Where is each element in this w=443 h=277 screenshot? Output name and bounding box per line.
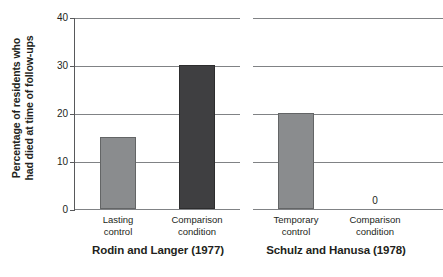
category-label-temporary-control-line2: control bbox=[274, 226, 319, 238]
bar-comparison-condition-rodin[interactable] bbox=[179, 65, 215, 209]
group-title-schulz-hanusa: Schulz and Hanusa (1978) bbox=[266, 244, 405, 256]
category-label-comparison-condition-schulz-line2: condition bbox=[349, 226, 400, 238]
y-tick-label-30: 30 bbox=[42, 61, 68, 71]
y-tick-label-20: 20 bbox=[42, 109, 68, 119]
group-title-rodin-langer: Rodin and Langer (1977) bbox=[92, 244, 224, 256]
category-label-comparison-condition-schulz: Comparison condition bbox=[349, 214, 400, 237]
gridline-40 bbox=[75, 18, 240, 19]
category-label-temporary-control: Temporary control bbox=[274, 214, 319, 237]
bar-value-label-comparison-schulz: 0 bbox=[372, 195, 378, 206]
gridline-30 bbox=[75, 66, 240, 67]
y-tick-label-40: 40 bbox=[42, 13, 68, 23]
category-label-comparison-condition-rodin-line2: condition bbox=[171, 226, 222, 238]
category-label-lasting-control-line1: Lasting bbox=[103, 214, 134, 226]
category-label-comparison-condition-rodin: Comparison condition bbox=[171, 214, 222, 237]
category-label-comparison-condition-rodin-line1: Comparison bbox=[171, 214, 222, 226]
category-label-lasting-control-line2: control bbox=[103, 226, 134, 238]
y-axis-title-line2: had died at time of follow-ups bbox=[22, 35, 35, 180]
bar-lasting-control[interactable] bbox=[100, 137, 136, 209]
bar-chart-figure: Percentage of residents who had died at … bbox=[0, 0, 443, 277]
plot-panel-rodin-langer bbox=[75, 18, 240, 210]
bar-temporary-control[interactable] bbox=[278, 113, 314, 209]
y-axis-tick-labels: 40 30 20 10 0 bbox=[42, 0, 68, 215]
category-label-lasting-control: Lasting control bbox=[103, 214, 134, 237]
gridline-20 bbox=[75, 114, 240, 115]
y-axis-title: Percentage of residents who had died at … bbox=[0, 0, 44, 215]
gridline-30-right bbox=[253, 66, 443, 67]
plot-panel-schulz-hanusa: 0 bbox=[253, 18, 443, 210]
y-axis-title-line1: Percentage of residents who bbox=[10, 35, 23, 180]
y-tick-label-10: 10 bbox=[42, 157, 68, 167]
category-label-temporary-control-line1: Temporary bbox=[274, 214, 319, 226]
y-tick-label-0: 0 bbox=[42, 205, 68, 215]
y-tickmark-0 bbox=[70, 210, 75, 211]
gridline-40-right bbox=[253, 18, 443, 19]
category-label-comparison-condition-schulz-line1: Comparison bbox=[349, 214, 400, 226]
